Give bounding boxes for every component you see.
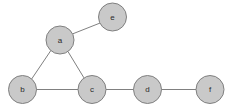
graph-node-d[interactable]: d [134, 76, 162, 104]
graph-node-b[interactable]: b [9, 76, 37, 104]
node-circle-d[interactable] [134, 76, 162, 104]
node-circle-c[interactable] [78, 76, 106, 104]
graph-diagram: a b c d e f [0, 0, 232, 109]
graph-node-a[interactable]: a [46, 26, 74, 54]
node-circle-a[interactable] [46, 26, 74, 54]
graph-node-e[interactable]: e [99, 3, 127, 31]
node-circle-e[interactable] [99, 3, 127, 31]
node-circle-b[interactable] [9, 76, 37, 104]
graph-node-f[interactable]: f [196, 76, 224, 104]
graph-node-c[interactable]: c [78, 76, 106, 104]
node-circle-f[interactable] [196, 76, 224, 104]
